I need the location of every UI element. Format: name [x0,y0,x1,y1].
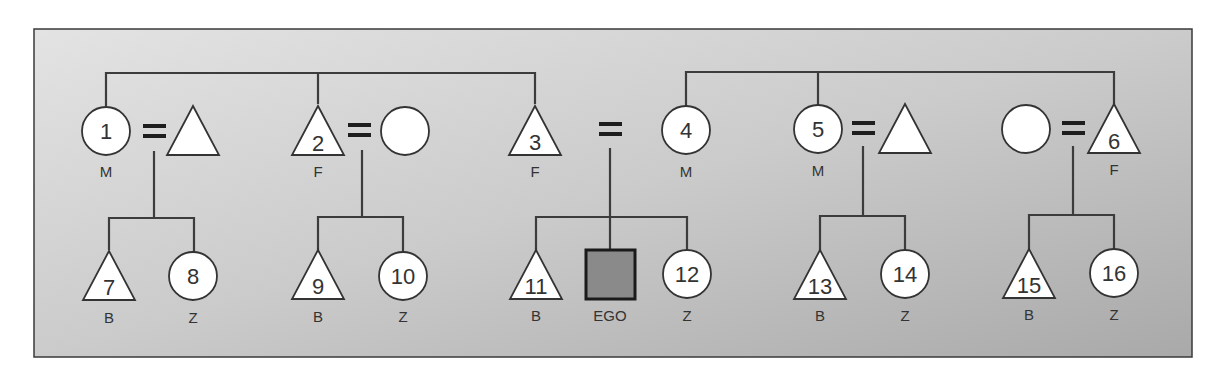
female-circle-icon [381,107,429,155]
kin-label: Z [682,307,691,324]
person-number: 8 [187,264,199,289]
kin-label: Z [1109,306,1118,323]
kin-label: F [313,163,322,180]
person-number: 15 [1017,273,1041,298]
person-number: 14 [893,262,917,287]
person-6-spouse[interactable] [1002,105,1050,153]
kin-label: Z [900,307,909,324]
person-number: 11 [525,274,548,299]
kin-label: B [531,307,541,324]
kin-label: M [812,162,825,179]
ego-square-icon [586,250,635,299]
person-number: 4 [680,118,692,143]
kin-label: M [100,163,113,180]
person-2-spouse[interactable] [381,107,429,155]
person-number: 5 [812,117,824,142]
kin-label: M [680,163,693,180]
kin-label: B [104,309,114,326]
person-number: 16 [1102,261,1126,286]
kin-label: EGO [593,307,626,324]
person-number: 7 [103,275,115,300]
person-number: 9 [312,274,324,299]
person-number: 13 [808,274,832,299]
person-number: 2 [312,131,324,156]
kin-label: B [1024,306,1034,323]
kin-label: Z [188,309,197,326]
kin-label: Z [398,308,407,325]
kinship-diagram: 1 M 2 F 3 F 4 M 5 M 6 F 7 B [0,0,1227,375]
kin-label: B [313,308,323,325]
person-number: 12 [675,262,699,287]
kin-label: F [530,163,539,180]
person-number: 10 [391,264,415,289]
kin-label: F [1109,161,1118,178]
person-number: 6 [1108,129,1120,154]
person-number: 1 [100,119,112,144]
person-number: 3 [529,130,541,155]
kin-label: B [815,307,825,324]
female-circle-icon [1002,105,1050,153]
